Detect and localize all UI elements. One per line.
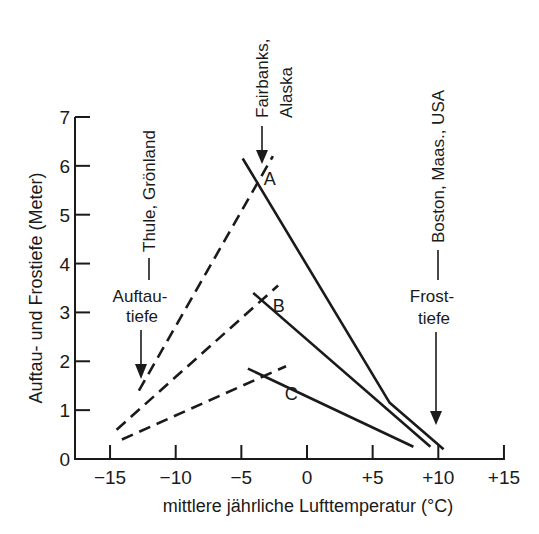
arrow-down-icon bbox=[430, 411, 442, 425]
x-axis-title: mittlere jährliche Lufttemperatur (°C) bbox=[163, 496, 453, 516]
y-tick-label: 6 bbox=[59, 156, 70, 177]
arrow-down-icon bbox=[256, 150, 268, 164]
x-tick-label: 0 bbox=[302, 467, 313, 488]
boston-label: Boston, Maas., USA bbox=[429, 89, 448, 243]
x-tick-label: −10 bbox=[160, 467, 192, 488]
annotation-auftautiefe: Auftau- tiefe bbox=[113, 287, 168, 379]
x-tick-label: −5 bbox=[231, 467, 253, 488]
x-tick-label: +5 bbox=[362, 467, 384, 488]
x-tick-label: −15 bbox=[94, 467, 126, 488]
frost-label-2: tiefe bbox=[418, 309, 450, 328]
y-tick-label: 0 bbox=[59, 449, 70, 470]
x-tick-label: +10 bbox=[422, 467, 454, 488]
y-tick-label: 3 bbox=[59, 302, 70, 323]
series-line-a-auftautiefe bbox=[139, 156, 273, 391]
y-tick-label: 2 bbox=[59, 351, 70, 372]
fairbanks-label-2: Alaska bbox=[277, 66, 296, 118]
annotation-fairbanks: Fairbanks, Alaska bbox=[253, 39, 296, 164]
x-tick-label: +15 bbox=[488, 467, 520, 488]
auftau-label-2: tiefe bbox=[126, 307, 158, 326]
series-line-c-frosttiefe bbox=[248, 369, 414, 447]
auftau-label-1: Auftau- bbox=[113, 287, 168, 306]
chart-svg: 01234567−15−10−50+5+10+15 ABC Thule, Grö… bbox=[0, 0, 539, 534]
chart-container: 01234567−15−10−50+5+10+15 ABC Thule, Grö… bbox=[0, 0, 539, 534]
thule-label: Thule, Grönland bbox=[140, 130, 159, 252]
y-tick-label: 4 bbox=[59, 254, 70, 275]
y-tick-label: 7 bbox=[59, 107, 70, 128]
series-label-a: A bbox=[264, 169, 276, 189]
arrow-down-icon bbox=[135, 364, 147, 379]
frost-label-1: Frost- bbox=[410, 287, 454, 306]
y-tick-label: 1 bbox=[59, 400, 70, 421]
y-axis-title: Auftau- und Frostiefe (Meter) bbox=[26, 172, 46, 403]
annotation-thule: Thule, Grönland bbox=[140, 130, 159, 280]
series-label-b: B bbox=[273, 296, 285, 316]
y-tick-label: 5 bbox=[59, 205, 70, 226]
annotation-frosttiefe: Frost- tiefe bbox=[410, 287, 454, 425]
annotation-boston: Boston, Maas., USA bbox=[429, 89, 448, 280]
series-label-c: C bbox=[285, 384, 298, 404]
fairbanks-label-1: Fairbanks, bbox=[253, 39, 272, 118]
